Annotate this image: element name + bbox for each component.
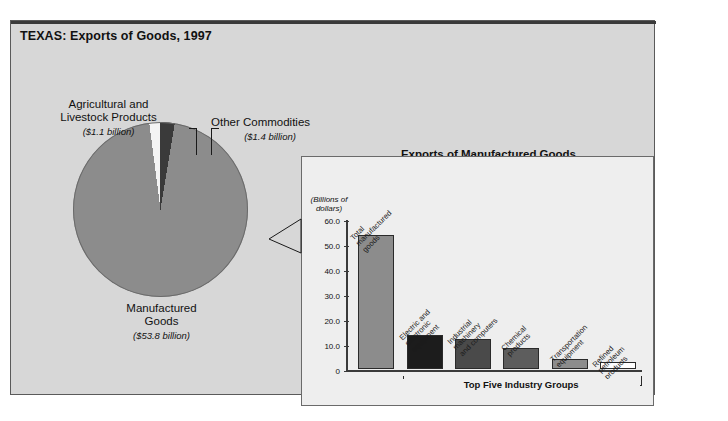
bracket-label: Top Five Industry Groups [403,379,640,390]
bar-chart-panel: (Billions of dollars) 010.020.030.040.05… [301,156,654,406]
y-tick-label: 20.0 [306,317,340,326]
title-rule [11,21,656,24]
y-tick-label: 30.0 [306,292,340,301]
pie-value-agricultural: ($1.1 billion) [16,125,201,138]
leader-line-other-elbow [211,128,219,129]
y-axis-unit-line1: (Billions of [304,195,354,204]
y-tick-mark [344,346,349,347]
pie-label-agricultural-text: Agricultural and Livestock Products [60,98,157,123]
bar-0 [358,235,394,370]
y-tick-label: 60.0 [306,217,340,226]
pie-label-agricultural: Agricultural and Livestock Products ($1.… [16,98,201,138]
y-tick-label: 40.0 [306,267,340,276]
bar-label-5: Refined petroleum products [591,339,633,381]
y-tick-label: 50.0 [306,242,340,251]
y-tick-label: 10.0 [306,342,340,351]
pie-label-other-commodities: Other Commodities ($1.4 billion) [211,116,361,143]
figure-panel: TEXAS: Exports of Goods, 1997 Agricultur… [10,20,655,395]
y-tick-mark [344,221,349,222]
y-tick-label: 0 [306,367,340,376]
leader-line-agricultural-vertical [196,128,197,155]
y-axis-unit-line2: dollars) [304,204,354,213]
leader-line-other-vertical [211,128,212,155]
pie-value-manufactured: ($53.8 billion) [79,329,244,342]
leader-line-agricultural-elbow [189,128,197,129]
y-axis-unit-label: (Billions of dollars) [304,195,354,213]
pie-chart [73,122,248,297]
y-tick-mark [344,296,349,297]
y-tick-mark [344,321,349,322]
page-title: TEXAS: Exports of Goods, 1997 [20,29,212,43]
pie-value-other: ($1.4 billion) [211,130,329,143]
pie-label-manufactured: Manufactured Goods ($53.8 billion) [79,302,244,342]
y-tick-mark [344,271,349,272]
pie-label-other-text: Other Commodities [211,116,310,128]
pie-label-manufactured-text: Manufactured Goods [126,302,196,327]
pie-chart-group: Agricultural and Livestock Products ($1.… [51,116,291,306]
y-tick-mark [344,246,349,247]
y-tick-mark [344,371,349,372]
